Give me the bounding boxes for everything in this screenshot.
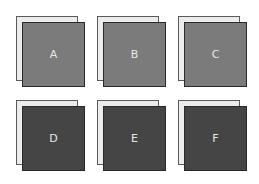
- front-sheet: B: [103, 22, 166, 87]
- tile-label: C: [212, 48, 220, 61]
- tile-a: A: [16, 16, 85, 87]
- tile-c: C: [178, 16, 247, 87]
- front-sheet: D: [22, 106, 85, 171]
- tile-e: E: [97, 100, 166, 171]
- front-sheet: F: [184, 106, 247, 171]
- tile-f: F: [178, 100, 247, 171]
- tile-d: D: [16, 100, 85, 171]
- tile-label: D: [49, 132, 57, 145]
- tile-label: F: [212, 132, 218, 145]
- tile-label: E: [131, 132, 138, 145]
- tile-b: B: [97, 16, 166, 87]
- tile-label: A: [50, 48, 58, 61]
- front-sheet: C: [184, 22, 247, 87]
- front-sheet: E: [103, 106, 166, 171]
- tile-label: B: [131, 48, 139, 61]
- front-sheet: A: [22, 22, 85, 87]
